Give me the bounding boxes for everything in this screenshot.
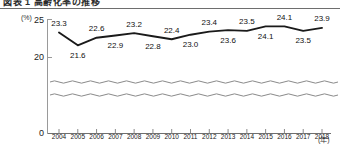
value-label-2013: 23.6 (216, 36, 240, 45)
value-label-2018: 23.9 (310, 14, 334, 23)
value-label-2011: 23.0 (179, 40, 203, 49)
value-label-2006: 22.6 (85, 24, 109, 33)
value-label-2008: 23.2 (122, 20, 146, 29)
value-label-2009: 22.8 (141, 42, 165, 51)
value-label-2016: 24.1 (272, 13, 296, 22)
value-label-2017: 23.5 (291, 36, 315, 45)
value-label-2010: 22.4 (160, 26, 184, 35)
axis-break-wave (50, 81, 338, 96)
chart-figure: 図表 1 高齢化率の推移 (%) (年) 25 20 0 20042005200… (0, 0, 340, 154)
value-label-2007: 22.9 (103, 41, 127, 50)
value-label-2014: 23.5 (235, 17, 259, 26)
value-label-2015: 24.1 (254, 32, 278, 41)
x-label-2018: 2018 (311, 133, 333, 140)
value-label-2012: 23.4 (197, 18, 221, 27)
value-label-2005: 21.6 (66, 51, 90, 60)
value-label-2004: 23.3 (47, 19, 71, 28)
